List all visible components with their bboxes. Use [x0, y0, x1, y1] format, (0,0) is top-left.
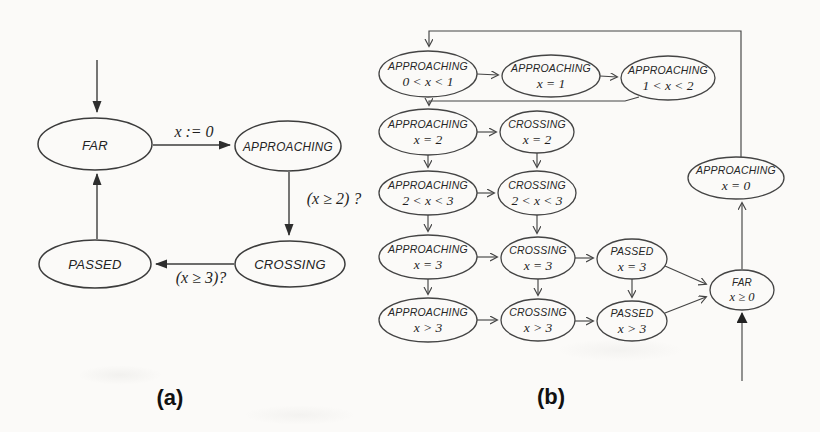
label-reset-clock: x := 0: [173, 123, 213, 140]
edge-passgt3-far: [665, 297, 706, 313]
state-far-ge0: FAR x ≥ 0: [710, 270, 774, 310]
state-approaching-x2: APPROACHING x = 2: [379, 109, 477, 155]
state-approaching-1x2: APPROACHING 1 < x < 2: [621, 56, 715, 100]
diagram-b: APPROACHING 0 < x < 1 APPROACHING x = 1 …: [379, 31, 784, 381]
svg-text:APPROACHING: APPROACHING: [387, 60, 468, 72]
label-guard-x-ge-3: (x ≥ 3)?: [176, 269, 227, 287]
svg-text:CROSSING: CROSSING: [254, 257, 326, 272]
state-crossing-x2: CROSSING x = 2: [500, 111, 574, 153]
svg-text:CROSSING: CROSSING: [509, 244, 567, 256]
state-far: FAR: [38, 118, 152, 170]
figure-canvas: x := 0 (x ≥ 2) ? (x ≥ 3)? FAR APPROACHIN…: [0, 0, 820, 432]
svg-text:APPROACHING: APPROACHING: [387, 118, 468, 130]
state-crossing-2x3: CROSSING 2 < x < 3: [498, 171, 576, 215]
svg-text:APPROACHING: APPROACHING: [387, 179, 468, 191]
edge-x1-1x2: [600, 76, 617, 77]
svg-text:PASSED: PASSED: [68, 257, 122, 272]
svg-text:CROSSING: CROSSING: [509, 306, 567, 318]
caption-a: (a): [157, 385, 184, 410]
state-crossing: CROSSING: [235, 241, 345, 287]
svg-text:x = 1: x = 1: [536, 76, 566, 91]
svg-text:x = 0: x = 0: [721, 178, 751, 193]
svg-text:PASSED: PASSED: [610, 307, 653, 319]
svg-text:x > 3: x > 3: [413, 320, 443, 335]
svg-text:FAR: FAR: [732, 277, 752, 288]
svg-text:2 < x < 3: 2 < x < 3: [511, 193, 562, 208]
svg-text:x > 3: x > 3: [617, 321, 647, 336]
state-approaching-2x3: APPROACHING 2 < x < 3: [379, 171, 477, 215]
state-passed-gt3: PASSED x > 3: [597, 301, 667, 341]
svg-text:APPROACHING: APPROACHING: [387, 306, 468, 318]
edge-loop-row1-row2: [429, 97, 639, 105]
state-approaching-x3: APPROACHING x = 3: [379, 235, 477, 279]
svg-text:1 < x < 2: 1 < x < 2: [642, 78, 693, 93]
svg-text:x = 3: x = 3: [617, 259, 647, 274]
state-approaching-x1: APPROACHING x = 1: [502, 55, 600, 97]
svg-text:APPROACHING: APPROACHING: [387, 243, 468, 255]
svg-text:x = 3: x = 3: [413, 257, 443, 272]
state-approaching: APPROACHING: [235, 121, 341, 171]
svg-text:x = 2: x = 2: [413, 132, 443, 147]
svg-text:APPROACHING: APPROACHING: [510, 62, 591, 74]
svg-text:APPROACHING: APPROACHING: [242, 139, 333, 154]
svg-text:PASSED: PASSED: [610, 245, 653, 257]
state-crossing-x3: CROSSING x = 3: [501, 237, 575, 279]
svg-text:CROSSING: CROSSING: [508, 118, 566, 130]
svg-text:x = 3: x = 3: [523, 258, 553, 273]
diagram-a: x := 0 (x ≥ 2) ? (x ≥ 3)? FAR APPROACHIN…: [38, 60, 361, 288]
svg-text:x ≥ 0: x ≥ 0: [729, 290, 756, 304]
svg-text:x = 2: x = 2: [522, 132, 552, 147]
state-approaching-x0: APPROACHING x = 0: [688, 157, 784, 199]
state-crossing-gt3: CROSSING x > 3: [501, 299, 575, 341]
svg-text:FAR: FAR: [82, 138, 108, 153]
svg-text:2 < x < 3: 2 < x < 3: [402, 193, 453, 208]
caption-b: (b): [537, 384, 565, 409]
state-approaching-gt3: APPROACHING x > 3: [379, 298, 477, 342]
label-guard-x-ge-2: (x ≥ 2) ?: [307, 190, 362, 208]
svg-text:APPROACHING: APPROACHING: [695, 164, 776, 176]
svg-text:0 < x < 1: 0 < x < 1: [402, 74, 453, 89]
svg-text:APPROACHING: APPROACHING: [627, 64, 708, 76]
state-passed-x3: PASSED x = 3: [597, 239, 667, 279]
svg-text:CROSSING: CROSSING: [508, 179, 566, 191]
state-approaching-0x1: APPROACHING 0 < x < 1: [379, 51, 477, 97]
svg-text:x > 3: x > 3: [523, 320, 553, 335]
edge-0x1-x1: [477, 74, 498, 75]
state-diagrams-svg: x := 0 (x ≥ 2) ? (x ≥ 3)? FAR APPROACHIN…: [0, 0, 820, 432]
state-passed: PASSED: [39, 240, 151, 288]
edge-passx3-far: [665, 266, 706, 284]
